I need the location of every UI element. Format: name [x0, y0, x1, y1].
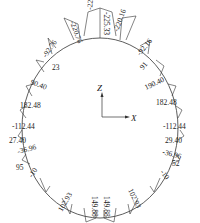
- value-label: 190.40: [143, 75, 166, 92]
- value-label: -225.33: [102, 12, 111, 35]
- axis-z-label: Z: [97, 83, 103, 93]
- value-label: -112.44: [163, 122, 186, 131]
- value-label: -10: [26, 166, 39, 180]
- value-label: 91: [138, 60, 150, 72]
- force-diagram: Z X -220.76 -225.13 -225.33 -220.16 -92.…: [0, 0, 200, 223]
- value-label: 149.88: [102, 196, 111, 217]
- value-label: 52: [172, 159, 180, 168]
- value-label: 23: [52, 63, 60, 72]
- value-label: -220.16: [111, 8, 127, 33]
- value-label: 29.40: [165, 136, 182, 145]
- axis-x-label: X: [130, 113, 137, 123]
- value-label: -92.76: [40, 38, 59, 59]
- value-label: -225.13: [85, 0, 96, 10]
- value-label: 102.93: [56, 190, 74, 213]
- value-label: 27.40: [9, 136, 26, 145]
- axis-indicator: Z X: [97, 83, 137, 123]
- value-label: 95: [16, 163, 24, 172]
- value-label: -112.44: [12, 122, 35, 131]
- value-label: 182.48: [20, 101, 41, 110]
- value-label: 149.88: [90, 196, 99, 217]
- value-label: 182.48: [156, 98, 177, 107]
- value-labels: -220.76 -225.13 -225.33 -220.16 -92.76 2…: [9, 0, 186, 217]
- value-label: -10: [158, 168, 171, 182]
- value-label: 90.40: [29, 77, 48, 91]
